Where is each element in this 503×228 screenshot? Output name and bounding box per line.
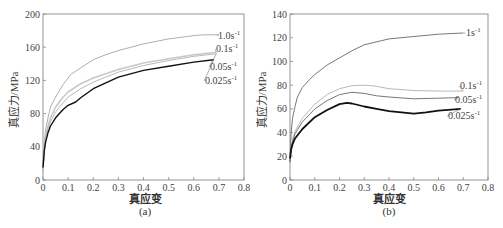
x-tick-label: 0.6: [188, 182, 201, 193]
y-tick-label: 120: [25, 75, 40, 86]
y-tick-label: 200: [25, 9, 40, 20]
x-tick-label: 0.6: [432, 182, 445, 193]
chart-a-plot: 0408012016020000.10.20.30.40.50.60.70.81…: [0, 0, 250, 200]
series-label: 0.1s-1: [460, 79, 483, 91]
series-label: 0.05s-1: [455, 93, 483, 105]
y-tick-label: 100: [272, 56, 287, 67]
y-tick-label: 60: [277, 103, 287, 114]
y-tick-label: 40: [277, 127, 287, 138]
series-label: 0.025s-1: [448, 109, 481, 121]
series-label: 0.1s-1: [216, 42, 239, 54]
chart-a-xlabel: 真应变: [110, 190, 180, 206]
y-tick-label: 120: [272, 32, 287, 43]
series-label: 1.0s-1: [218, 29, 241, 41]
x-tick-label: 0: [288, 182, 293, 193]
x-tick-label: 0.1: [62, 182, 75, 193]
y-tick-label: 0: [35, 175, 40, 186]
series-line: [43, 52, 216, 170]
x-tick-label: 0.8: [238, 182, 250, 193]
x-tick-label: 0.8: [482, 182, 495, 193]
chart-panel-a: 0408012016020000.10.20.30.40.50.60.70.81…: [0, 0, 250, 228]
series-label: 0.05s-1: [210, 60, 238, 72]
chart-b-caption: (b): [374, 205, 404, 217]
y-tick-label: 140: [272, 9, 287, 20]
x-tick-label: 0.2: [87, 182, 100, 193]
series-line: [290, 33, 463, 162]
y-tick-label: 40: [30, 141, 40, 152]
series-label: 1s-1: [466, 26, 481, 38]
y-tick-label: 20: [277, 151, 287, 162]
y-tick-label: 80: [30, 108, 40, 119]
x-tick-label: 0.2: [333, 182, 346, 193]
chart-b-xlabel: 真应变: [354, 190, 424, 206]
x-tick-label: 0.7: [457, 182, 470, 193]
series-line: [290, 103, 461, 159]
series-line: [43, 60, 214, 168]
x-tick-label: 0.7: [213, 182, 226, 193]
chart-b-plot: 02040608010012014000.10.20.30.40.50.60.7…: [250, 0, 503, 200]
series-line: [290, 92, 458, 162]
chart-panel-b: 02040608010012014000.10.20.30.40.50.60.7…: [250, 0, 503, 228]
series-line: [290, 85, 463, 162]
x-tick-label: 0.1: [309, 182, 322, 193]
plot-frame: [43, 14, 244, 180]
y-tick-label: 80: [277, 80, 287, 91]
series-line: [43, 54, 216, 172]
series-label: 0.025s-1: [205, 74, 238, 86]
x-tick-label: 0: [41, 182, 46, 193]
chart-a-ylabel: 真应力/MPa: [5, 65, 21, 135]
chart-a-caption: (a): [130, 205, 160, 217]
chart-b-ylabel: 真应力/MPa: [253, 65, 269, 135]
y-tick-label: 0: [282, 175, 287, 186]
y-tick-label: 160: [25, 42, 40, 53]
